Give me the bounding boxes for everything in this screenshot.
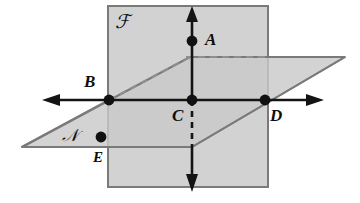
point-label-E: E [93,150,103,165]
horizontal-line-right-arrowhead [306,94,324,106]
point-A-dot [187,36,198,47]
point-label-D: D [270,107,282,124]
point-label-A: A [205,31,216,48]
plane-label-N: 𝒩 [62,127,78,144]
point-B-dot [104,95,115,106]
geometry-diagram [0,0,360,203]
point-E-dot [96,132,107,143]
plane-label-F: ℱ [115,12,130,31]
point-label-C: C [172,107,183,124]
point-label-B: B [84,73,95,90]
point-C-dot [187,95,198,106]
geometry-figure: ℱ 𝒩 A B C D E [0,0,360,203]
point-D-dot [260,95,271,106]
horizontal-line-left-arrowhead [42,94,60,106]
